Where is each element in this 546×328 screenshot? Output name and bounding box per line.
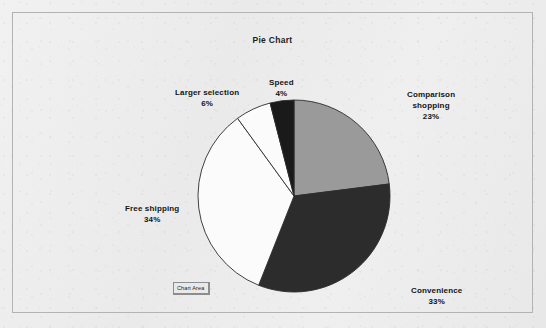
slice-label-line1: Free shipping xyxy=(125,203,179,214)
slice-label-line1: Convenience xyxy=(411,285,462,296)
slice-value: 34% xyxy=(125,214,179,225)
slice-label-comparison-shopping: Comparison shopping 23% xyxy=(407,89,455,122)
chart-area-tooltip: Chart Area xyxy=(173,282,210,295)
slice-value: 4% xyxy=(269,88,294,99)
slice-label-convenience: Convenience 33% xyxy=(411,285,462,307)
chart-frame[interactable]: Pie Chart Comparison shopping 23% Conven… xyxy=(12,12,533,313)
slice-value: 33% xyxy=(411,296,462,307)
slice-label-line2: shopping xyxy=(407,100,455,111)
slice-label-line1: Larger selection xyxy=(175,87,239,98)
slice-label-speed: Speed 4% xyxy=(269,77,294,99)
slice-label-line1: Comparison xyxy=(407,89,455,100)
slice-value: 23% xyxy=(407,111,455,122)
slice-label-larger-selection: Larger selection 6% xyxy=(175,87,239,109)
slice-label-free-shipping: Free shipping 34% xyxy=(125,203,179,225)
slice-label-line1: Speed xyxy=(269,77,294,88)
pie-chart-graphic[interactable] xyxy=(13,13,532,312)
slice-value: 6% xyxy=(175,98,239,109)
pie-slice-comparison-shopping[interactable] xyxy=(294,100,389,196)
pie-slices xyxy=(198,100,390,292)
